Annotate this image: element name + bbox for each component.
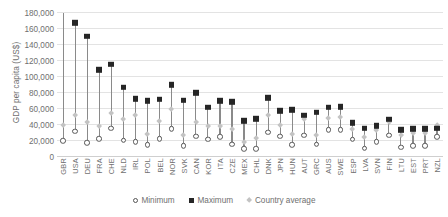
maximum-point — [181, 97, 187, 103]
minimum-point — [398, 145, 404, 151]
minimum-point — [133, 139, 139, 145]
y-axis-tick: 20,000 — [29, 137, 54, 146]
range-stem — [292, 110, 293, 145]
x-axis-tick: GRC — [312, 158, 321, 175]
minimum-point — [362, 145, 368, 151]
maximum-point — [157, 97, 163, 103]
maximum-point — [386, 117, 392, 123]
y-axis-tick: 160,000 — [24, 25, 54, 34]
minimum-point — [386, 133, 392, 139]
legend-label-minimum: Minimum — [141, 196, 174, 205]
country-average-point — [277, 123, 283, 129]
x-axis-tick: EST — [409, 158, 418, 173]
range-stem — [183, 100, 184, 146]
legend-item-maximum: Maximum — [189, 196, 233, 205]
minimum-point — [229, 141, 235, 147]
minimum-point — [84, 140, 90, 146]
y-axis-tick: 180,000 — [24, 9, 54, 18]
country-average-point — [337, 115, 343, 121]
country-average-point — [313, 132, 319, 138]
range-stem — [195, 93, 196, 136]
legend-item-country-average: Country average — [247, 196, 315, 205]
x-axis-tick: AUT — [300, 158, 309, 173]
minimum-point — [374, 139, 380, 145]
maximum-point — [314, 109, 320, 115]
y-axis-tick: 120,000 — [24, 57, 54, 66]
maximum-point — [410, 126, 416, 132]
x-axis-tick: FIN — [385, 158, 394, 171]
x-axis-tick: NZL — [433, 158, 442, 173]
gridline — [57, 92, 443, 93]
country-average-point — [60, 123, 66, 129]
x-axis-tick: FRA — [95, 158, 104, 173]
range-stem — [87, 36, 88, 142]
maximum-point — [193, 90, 199, 96]
maximum-point — [265, 95, 271, 101]
x-axis-tick: JPN — [276, 158, 285, 173]
range-stem — [219, 101, 220, 137]
x-axis-tick: NLD — [119, 158, 128, 173]
country-average-marker-icon — [246, 197, 252, 203]
country-average-point — [132, 112, 138, 118]
y-axis-tick: 40,000 — [29, 121, 54, 130]
plot-area — [57, 13, 443, 157]
minimum-point — [350, 137, 356, 143]
x-axis-tick: SVK — [180, 158, 189, 173]
country-average-point — [325, 116, 331, 122]
minimum-point — [326, 127, 332, 133]
maximum-point — [422, 126, 428, 132]
range-stem — [316, 112, 317, 144]
y-axis-tick: 80,000 — [29, 89, 54, 98]
y-axis-tick: 140,000 — [24, 41, 54, 50]
x-axis-tick: AUS — [324, 158, 333, 174]
country-average-point — [205, 124, 211, 130]
country-average-point — [349, 127, 355, 133]
minimum-point — [338, 127, 344, 133]
chart-legend: Minimum Maximum Country average — [0, 196, 448, 205]
maximum-point — [84, 33, 90, 39]
x-axis-tick: USA — [71, 158, 80, 174]
minimum-point — [169, 126, 175, 132]
maximum-point — [205, 105, 211, 111]
country-average-point — [229, 127, 235, 133]
maximum-point — [434, 125, 440, 131]
minimum-point — [96, 136, 102, 142]
maximum-point — [72, 20, 78, 26]
x-axis-tick: ESP — [349, 158, 358, 173]
y-axis-tick: 0 — [49, 153, 54, 162]
gridline — [57, 140, 443, 141]
country-average-point — [398, 132, 404, 138]
country-average-point — [217, 124, 223, 130]
country-average-point — [144, 132, 150, 138]
country-average-point — [72, 112, 78, 118]
minimum-point — [205, 137, 211, 143]
x-axis-tick: LVA — [361, 158, 370, 171]
minimum-point — [108, 125, 114, 131]
minimum-point — [253, 146, 259, 152]
x-axis-tick: KOR — [204, 158, 213, 175]
x-axis-tick: SVN — [373, 158, 382, 174]
maximum-point — [241, 118, 247, 124]
maximum-point — [121, 85, 127, 91]
country-average-point — [241, 140, 247, 146]
gridline — [57, 44, 443, 45]
maximum-point — [398, 127, 404, 133]
country-average-point — [120, 116, 126, 122]
maximum-point — [301, 113, 307, 119]
maximum-point — [362, 125, 368, 131]
chart-container: GDP per capita (US$) 180,000160,000140,0… — [0, 0, 448, 217]
x-axis-tick: MEX — [240, 158, 249, 175]
gridline — [57, 76, 443, 77]
range-stem — [123, 87, 124, 140]
minimum-point — [301, 133, 307, 139]
maximum-point — [289, 107, 295, 113]
country-average-point — [265, 112, 271, 118]
x-axis-tick: ITA — [216, 158, 225, 170]
minimum-point — [72, 129, 78, 135]
x-axis-tick-labels: GBRUSADEUFRACHENLDIRLPOLBELNORSVKCANKORI… — [57, 158, 443, 192]
maximum-point — [326, 105, 332, 111]
x-axis-tick: NOR — [168, 158, 177, 175]
x-axis-tick: PRT — [421, 158, 430, 173]
minimum-point — [314, 141, 320, 147]
minimum-point — [217, 134, 223, 140]
